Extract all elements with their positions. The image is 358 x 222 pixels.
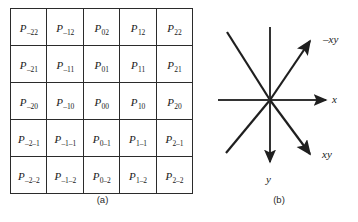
cell-subscript: 21 xyxy=(174,65,181,74)
cell-base: P xyxy=(93,170,100,182)
cell-base: P xyxy=(131,59,138,71)
grid-cell: P1–2 xyxy=(120,157,156,194)
panel-b-axes: –xy x xy y xyxy=(200,8,358,188)
cell-base: P xyxy=(167,59,174,71)
cell-subscript: 12 xyxy=(138,28,145,37)
grid-cell: P22 xyxy=(156,9,192,46)
grid-cell: P20 xyxy=(156,83,192,120)
table-row: P–21 P–11 P01 P11 P21 xyxy=(11,46,193,83)
grid-cell: P–10 xyxy=(47,83,83,120)
cell-base: P xyxy=(18,170,25,182)
grid-cell: P–1–1 xyxy=(47,120,83,157)
grid-cell: P1–1 xyxy=(120,120,156,157)
cell-base: P xyxy=(56,22,63,34)
cell-subscript: 1–1 xyxy=(136,139,147,148)
minus-xy-axis-arrow xyxy=(270,41,310,100)
cell-base: P xyxy=(167,22,174,34)
cell-subscript: 2–1 xyxy=(172,139,183,148)
grid-cell: P11 xyxy=(120,46,156,83)
cell-subscript: –10 xyxy=(63,102,74,111)
cell-subscript: 01 xyxy=(101,65,108,74)
table-row: P–20 P–10 P00 P10 P20 xyxy=(11,83,193,120)
axes-diagram: –xy x xy y xyxy=(200,8,358,188)
cell-subscript: –1–1 xyxy=(61,139,76,148)
cell-base: P xyxy=(20,22,27,34)
cell-subscript: –1–2 xyxy=(61,176,76,185)
cell-subscript: –22 xyxy=(27,28,38,37)
table-row: P–2–2 P–1–2 P0–2 P1–2 P2–2 xyxy=(11,157,193,194)
grid-cell: P–22 xyxy=(11,9,47,46)
cell-subscript: 2–2 xyxy=(172,176,183,185)
grid-cell: P–2–1 xyxy=(11,120,47,157)
grid-cell: P–12 xyxy=(47,9,83,46)
grid-cell: P2–1 xyxy=(156,120,192,157)
cell-base: P xyxy=(20,96,27,108)
cell-subscript: 02 xyxy=(101,28,108,37)
xy-axis-label: xy xyxy=(321,148,332,160)
minus-xy-axis-label: –xy xyxy=(322,33,338,45)
pixel-neighborhood-table: P–22 P–12 P02 P12 P22 P–21 P–11 P01 P11 … xyxy=(10,8,193,194)
grid-cell: P10 xyxy=(120,83,156,120)
grid-cell: P2–2 xyxy=(156,157,192,194)
cell-subscript: –2–1 xyxy=(25,139,40,148)
cell-subscript: 20 xyxy=(174,102,181,111)
table-row: P–22 P–12 P02 P12 P22 xyxy=(11,9,193,46)
grid-cell: P–21 xyxy=(11,46,47,83)
cell-base: P xyxy=(131,22,138,34)
cell-subscript: –2–2 xyxy=(25,176,40,185)
cell-subscript: 0–1 xyxy=(100,139,111,148)
grid-cell: P0–1 xyxy=(83,120,119,157)
grid-cell: P12 xyxy=(120,9,156,46)
caption-panel-b: (b) xyxy=(200,194,358,205)
grid-cell: P21 xyxy=(156,46,192,83)
grid-cell: P–20 xyxy=(11,83,47,120)
cell-subscript: –11 xyxy=(63,65,74,74)
caption-panel-a: (a) xyxy=(0,194,205,205)
cell-subscript: 00 xyxy=(101,102,108,111)
grid-cell: P–1–2 xyxy=(47,157,83,194)
cell-base: P xyxy=(129,133,136,145)
cell-base: P xyxy=(93,133,100,145)
y-axis-label: y xyxy=(265,173,271,185)
cell-subscript: 0–2 xyxy=(100,176,111,185)
grid-cell: P–11 xyxy=(47,46,83,83)
cell-subscript: 10 xyxy=(138,102,145,111)
cell-subscript: 22 xyxy=(174,28,181,37)
cell-base: P xyxy=(18,133,25,145)
cell-base: P xyxy=(56,96,63,108)
grid-cell: P–2–2 xyxy=(11,157,47,194)
cell-base: P xyxy=(20,59,27,71)
cell-base: P xyxy=(167,96,174,108)
grid-cell: P0–2 xyxy=(83,157,119,194)
diagonal-line-lower-left xyxy=(226,100,270,153)
grid-cell: P02 xyxy=(83,9,119,46)
xy-axis-arrow xyxy=(270,100,310,154)
panel-a-grid: P–22 P–12 P02 P12 P22 P–21 P–11 P01 P11 … xyxy=(10,8,193,188)
cell-subscript: –20 xyxy=(27,102,38,111)
cell-subscript: 1–2 xyxy=(136,176,147,185)
cell-base: P xyxy=(131,96,138,108)
grid-cell: P01 xyxy=(83,46,119,83)
grid-cell: P00 xyxy=(83,83,119,120)
x-axis-label: x xyxy=(331,93,337,105)
diagonal-line-upper-left xyxy=(227,32,270,100)
cell-subscript: 11 xyxy=(138,65,145,74)
cell-subscript: –21 xyxy=(27,65,38,74)
cell-subscript: –12 xyxy=(63,28,74,37)
cell-base: P xyxy=(129,170,136,182)
table-row: P–2–1 P–1–1 P0–1 P1–1 P2–1 xyxy=(11,120,193,157)
